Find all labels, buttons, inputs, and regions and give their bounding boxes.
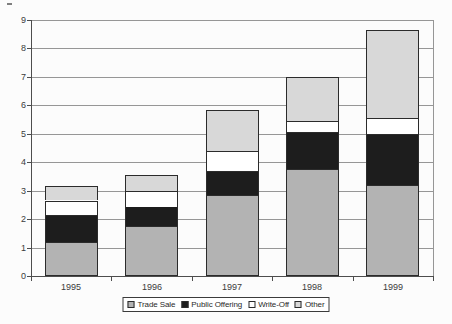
y-tick-label: 5 xyxy=(4,129,26,139)
bar-segment-write-off xyxy=(366,118,419,134)
x-tick-label: 1999 xyxy=(365,282,421,293)
legend-swatch-trade-sale xyxy=(128,301,135,308)
legend-swatch-write-off xyxy=(248,301,255,308)
bar-segment-trade-sale xyxy=(366,185,419,276)
x-tick-mark xyxy=(353,277,354,281)
y-tick-label: 3 xyxy=(4,186,26,196)
legend-label: Trade Sale xyxy=(138,300,176,309)
y-tick-mark xyxy=(27,48,31,49)
y-tick-mark xyxy=(27,162,31,163)
legend-label: Write-Off xyxy=(258,300,289,309)
x-tick-mark xyxy=(272,277,273,281)
legend-item: Other xyxy=(295,300,325,309)
bar-segment-other xyxy=(45,186,98,200)
bar-segment-public-offering xyxy=(45,215,98,242)
bar-segment-trade-sale xyxy=(125,226,178,276)
bar-segment-write-off xyxy=(45,201,98,215)
y-tick-label: 9 xyxy=(4,15,26,25)
scan-speck xyxy=(7,3,12,5)
bar-segment-write-off xyxy=(125,191,178,207)
y-tick-label: 1 xyxy=(4,243,26,253)
y-tick-label: 2 xyxy=(4,214,26,224)
x-tick-mark xyxy=(192,277,193,281)
bar-segment-trade-sale xyxy=(286,169,339,276)
stacked-bar-chart: 0123456789 19951996199719981999 Trade Sa… xyxy=(0,0,452,324)
legend-item: Public Offering xyxy=(181,300,242,309)
plot-border-right xyxy=(433,20,434,277)
x-tick-mark xyxy=(111,277,112,281)
y-tick-mark xyxy=(27,219,31,220)
bar-segment-public-offering xyxy=(366,134,419,185)
x-tick-label: 1996 xyxy=(124,282,180,293)
bar-segment-write-off xyxy=(206,151,259,171)
y-tick-label: 4 xyxy=(4,157,26,167)
legend-swatch-other xyxy=(295,301,302,308)
y-tick-mark xyxy=(27,248,31,249)
bar-segment-public-offering xyxy=(206,171,259,195)
y-tick-mark xyxy=(27,105,31,106)
gridline xyxy=(32,20,433,21)
x-axis-line xyxy=(31,276,434,277)
legend-item: Write-Off xyxy=(248,300,289,309)
legend: Trade SalePublic OfferingWrite-OffOther xyxy=(123,297,330,312)
legend-swatch-public-offering xyxy=(181,301,188,308)
y-tick-mark xyxy=(27,191,31,192)
bar-segment-other xyxy=(286,77,339,121)
y-tick-label: 0 xyxy=(4,271,26,281)
y-tick-label: 8 xyxy=(4,43,26,53)
bar-segment-public-offering xyxy=(286,132,339,169)
x-tick-mark xyxy=(31,277,32,281)
legend-label: Other xyxy=(305,300,325,309)
y-axis-line xyxy=(31,20,32,277)
y-tick-mark xyxy=(27,77,31,78)
y-tick-mark xyxy=(27,20,31,21)
legend-label: Public Offering xyxy=(191,300,242,309)
x-tick-label: 1998 xyxy=(284,282,340,293)
x-tick-label: 1995 xyxy=(43,282,99,293)
y-tick-mark xyxy=(27,134,31,135)
bar-segment-public-offering xyxy=(125,206,178,226)
bar-segment-write-off xyxy=(286,121,339,132)
bar-segment-other xyxy=(125,175,178,191)
bar-segment-trade-sale xyxy=(45,242,98,276)
bar-segment-trade-sale xyxy=(206,195,259,276)
x-tick-label: 1997 xyxy=(204,282,260,293)
y-tick-label: 7 xyxy=(4,72,26,82)
legend-item: Trade Sale xyxy=(128,300,176,309)
bar-segment-other xyxy=(366,30,419,118)
bar-segment-other xyxy=(206,110,259,151)
x-tick-mark xyxy=(433,277,434,281)
y-tick-label: 6 xyxy=(4,100,26,110)
